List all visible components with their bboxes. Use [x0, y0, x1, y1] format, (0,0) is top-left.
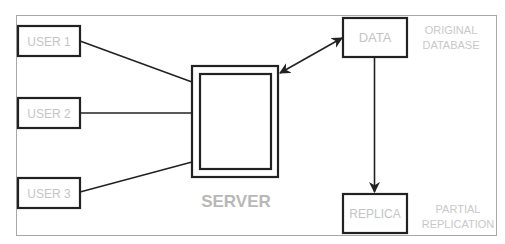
replica-annotation-line1: PARTIAL — [436, 203, 481, 215]
data-annotation-line1: ORIGINAL — [425, 24, 478, 36]
user-label: USER 3 — [27, 187, 71, 201]
replica-annotation-line2: REPLICATION — [422, 218, 495, 230]
user-node[interactable]: USER 2 — [18, 98, 80, 128]
server-label: SERVER — [201, 192, 271, 211]
edge-user3-server — [80, 162, 192, 192]
data-label: DATA — [359, 30, 392, 45]
replica-node[interactable]: REPLICA — [343, 194, 407, 233]
server-node[interactable]: SERVER — [192, 66, 278, 211]
diagram-canvas: USER 1 USER 2 USER 3 SERVER DATA ORIGINA… — [0, 0, 505, 244]
edge-server-data — [280, 38, 342, 73]
user-node[interactable]: USER 3 — [18, 178, 80, 208]
server-inner-box — [200, 74, 271, 169]
edge-user1-server — [80, 41, 192, 82]
user-label: USER 2 — [27, 107, 71, 121]
user-label: USER 1 — [27, 35, 71, 49]
replica-label: REPLICA — [349, 207, 400, 221]
data-annotation-line2: DATABASE — [422, 39, 479, 51]
data-node[interactable]: DATA — [343, 18, 407, 57]
user-node[interactable]: USER 1 — [18, 26, 80, 56]
